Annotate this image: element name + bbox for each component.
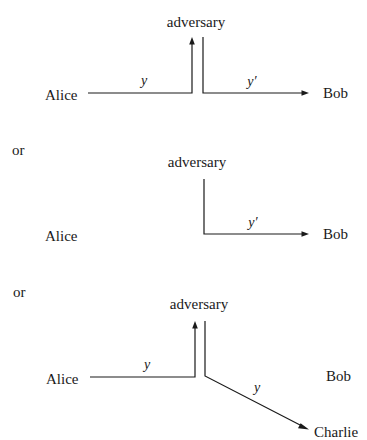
edge-label-y: y xyxy=(252,380,261,395)
bob-label: Bob xyxy=(323,226,348,242)
or-separator: or xyxy=(12,142,25,158)
edge-adversary-to-bob: y′ xyxy=(203,37,309,96)
edge-label-y: y xyxy=(142,357,151,372)
arrowhead-up-icon xyxy=(189,37,195,45)
edge-label-y-prime: y′ xyxy=(246,215,258,230)
panel-2: or adversary Alice Bob y′ xyxy=(12,142,348,244)
edge-label-y-prime: y′ xyxy=(245,74,257,89)
arrowhead-right-icon xyxy=(302,231,310,237)
adversary-label: adversary xyxy=(170,296,229,312)
charlie-label: Charlie xyxy=(314,424,358,440)
or-separator: or xyxy=(13,284,26,300)
adversary-message-diagram: adversary Alice Bob y y′ or adversary Al… xyxy=(0,0,367,440)
edge-adversary-to-charlie: y xyxy=(205,321,309,430)
bob-label: Bob xyxy=(326,368,351,384)
bob-label: Bob xyxy=(323,85,348,101)
alice-label: Alice xyxy=(45,87,78,103)
edge-adversary-to-bob: y′ xyxy=(204,179,309,237)
adversary-label: adversary xyxy=(167,14,226,30)
edge-line xyxy=(90,327,195,377)
alice-label: Alice xyxy=(45,228,78,244)
alice-label: Alice xyxy=(46,371,79,387)
adversary-label: adversary xyxy=(168,154,227,170)
arrowhead-up-icon xyxy=(192,321,198,329)
edge-alice-to-adversary: y xyxy=(90,321,198,377)
edge-line xyxy=(205,321,302,426)
edge-alice-to-adversary: y xyxy=(88,37,195,93)
arrowhead-right-icon xyxy=(302,90,310,96)
edge-label-y: y xyxy=(139,73,148,88)
panel-1: adversary Alice Bob y y′ xyxy=(45,14,348,103)
panel-3: or adversary Alice Bob Charlie y y xyxy=(13,284,358,440)
